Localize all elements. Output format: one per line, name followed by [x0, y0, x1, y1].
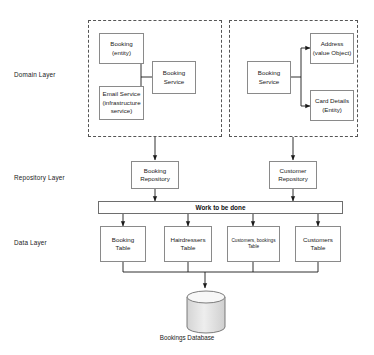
work-to-be-done-label: Work to be done: [196, 204, 246, 211]
node-booking-service-left-line2: Service: [164, 78, 185, 86]
node-hairdressers-table-line1: Hairdressers: [170, 236, 205, 244]
diagram-canvas: Domain Layer Repository Layer Data Layer: [0, 0, 374, 355]
node-customers-table-line1: Customers: [303, 236, 333, 244]
node-customers-table-line2: Table: [311, 244, 326, 252]
node-booking-service-right-line1: Booking: [258, 69, 280, 77]
node-card-details-line2: (Entity): [322, 106, 342, 114]
node-booking-table[interactable]: Booking Table: [100, 226, 146, 262]
node-hairdressers-table-line2: Table: [181, 244, 196, 252]
node-customer-repository[interactable]: Customer Repository: [269, 161, 317, 189]
node-customer-repository-line2: Repository: [278, 175, 308, 183]
work-to-be-done-bar[interactable]: Work to be done: [98, 201, 343, 214]
node-email-service[interactable]: Email Service (infrastructure service): [99, 86, 144, 120]
layer-label-data: Data Layer: [14, 239, 47, 246]
node-address-line1: Address: [321, 40, 344, 48]
node-customers-bookings-table[interactable]: Customers, bookings Table: [227, 226, 280, 262]
node-customers-bookings-table-line2: Table: [248, 244, 259, 250]
node-booking-entity-line1: Booking: [110, 40, 132, 48]
node-booking-entity-line2: (entity): [112, 49, 131, 57]
node-email-service-line2: (infrastructure: [102, 99, 140, 107]
node-booking-service-right[interactable]: Booking Service: [247, 61, 291, 94]
node-booking-repository-line1: Booking: [144, 167, 166, 175]
node-booking-entity[interactable]: Booking (entity): [99, 33, 144, 64]
node-customer-repository-line1: Customer: [280, 167, 307, 175]
node-address[interactable]: Address (value Object): [310, 33, 354, 64]
node-booking-repository-line2: Repository: [140, 175, 170, 183]
node-customers-table[interactable]: Customers Table: [295, 226, 341, 262]
node-booking-repository[interactable]: Booking Repository: [131, 161, 179, 189]
node-hairdressers-table[interactable]: Hairdressers Table: [164, 226, 212, 262]
layer-label-repository: Repository Layer: [14, 174, 65, 181]
node-booking-table-line2: Table: [116, 244, 131, 252]
layer-label-domain: Domain Layer: [14, 71, 56, 78]
node-booking-service-right-line2: Service: [259, 78, 280, 86]
node-email-service-line1: Email Service: [103, 90, 141, 98]
node-card-details-line1: Card Details: [315, 97, 349, 105]
node-booking-table-line1: Booking: [112, 236, 134, 244]
node-booking-service-left[interactable]: Booking Service: [152, 61, 196, 94]
node-email-service-line3: service): [111, 107, 133, 115]
database-cylinder-icon: [185, 290, 227, 334]
node-card-details[interactable]: Card Details (Entity): [310, 90, 354, 121]
node-address-line2: (value Object): [313, 49, 352, 57]
database-caption: Bookings Database: [0, 334, 374, 341]
node-booking-service-left-line1: Booking: [163, 69, 185, 77]
